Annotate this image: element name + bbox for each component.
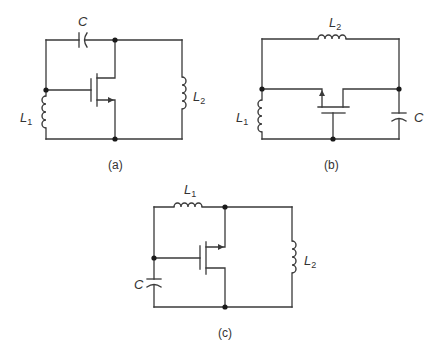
oscillator-circuits-figure: C L1 L2 (a) L2 L1 [0,0,436,348]
inductor-l2-c [292,241,296,273]
mosfet-b [262,89,399,139]
circuit-c: L1 C L2 (c) [134,182,316,340]
label-l2-b: L2 [329,15,341,32]
junction-dot [151,255,156,260]
label-l2-a: L2 [193,89,205,106]
junction-dot [222,204,227,209]
inductor-l1-a [42,96,46,128]
label-c-a: C [78,14,88,29]
label-c-b: C [414,110,424,125]
label-l2-c: L2 [304,253,316,270]
circuit-a: C L1 L2 (a) [20,14,205,172]
label-l1-b: L1 [236,110,248,127]
label-l1-a: L1 [20,110,32,127]
junction-dot [112,136,117,141]
mosfet-a [46,40,115,139]
circuit-b: L2 L1 C (b) [236,15,424,172]
junction-dot [112,37,117,42]
junction-dot [396,86,401,91]
junction-dot [43,87,48,92]
caption-b: (b) [324,158,339,172]
junction-dot [330,136,335,141]
label-l1-c: L1 [184,182,196,199]
inductor-l2-a [182,77,186,109]
inductor-l1-c [174,203,202,207]
caption-c: (c) [218,326,232,340]
mosfet-c [154,207,225,307]
junction-dot [222,304,227,309]
inductor-l2-b [318,35,346,39]
inductor-l1-b [258,100,262,132]
junction-dot [259,86,264,91]
label-c-c: C [134,277,144,292]
caption-a: (a) [108,158,123,172]
